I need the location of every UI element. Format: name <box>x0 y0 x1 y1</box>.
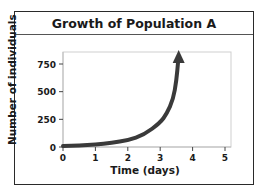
y-tick-label: 750 <box>37 60 56 70</box>
x-axis-label: Time (days) <box>0 164 264 176</box>
x-ticks: 012345 <box>60 147 228 163</box>
x-tick-label: 4 <box>189 153 195 163</box>
y-tick-label: 0 <box>50 143 56 153</box>
x-tick-label: 3 <box>157 153 163 163</box>
y-ticks: 0250500750 <box>37 60 63 153</box>
y-axis-label: Number of individuals <box>6 14 18 145</box>
y-tick-label: 250 <box>37 115 56 125</box>
x-tick-label: 2 <box>125 153 131 163</box>
y-tick-label: 500 <box>37 87 56 97</box>
x-tick-label: 5 <box>222 153 228 163</box>
x-tick-label: 0 <box>60 153 66 163</box>
x-tick-label: 1 <box>92 153 98 163</box>
growth-curve <box>63 61 178 146</box>
